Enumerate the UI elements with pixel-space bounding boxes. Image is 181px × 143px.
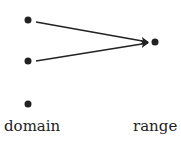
arrow-d2-to-r1	[36, 43, 148, 61]
arrow-d1-to-r1	[36, 22, 148, 42]
arrows	[36, 22, 148, 61]
range-label: range	[133, 117, 177, 135]
domain-point-3	[25, 101, 32, 108]
range-point-1	[152, 39, 159, 46]
range-points	[152, 39, 159, 46]
domain-point-2	[25, 58, 32, 65]
domain-label: domain	[4, 117, 60, 135]
domain-point-1	[25, 17, 32, 24]
domain-points	[25, 17, 32, 108]
